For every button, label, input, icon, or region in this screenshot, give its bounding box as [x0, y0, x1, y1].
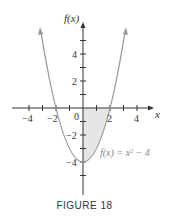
figure: f(x) x −4 −2 2 4 0 4 2 −2 −4 f(x) = x² −…	[0, 0, 169, 217]
x-tick-label: 2	[107, 113, 112, 124]
x-tick-label: −4	[22, 113, 33, 124]
y-axis-arrow-icon	[81, 22, 86, 28]
function-label: f(x) = x² − 4	[100, 147, 150, 159]
x-tick-label: −2	[47, 113, 58, 124]
origin-label: 0	[74, 111, 79, 122]
x-axis-label: x	[154, 108, 160, 120]
y-tick-label: 4	[72, 49, 77, 60]
y-tick-label: −4	[66, 157, 77, 168]
curve-arrow-left-icon	[38, 27, 43, 35]
y-tick-label: 2	[72, 76, 77, 87]
x-tick-label: 4	[134, 113, 139, 124]
figure-caption: FIGURE 18	[0, 200, 169, 211]
y-tick-label: −2	[66, 130, 77, 141]
curve-arrow-right-icon	[123, 27, 128, 35]
x-axis-arrow-icon	[148, 106, 154, 111]
parabola-chart: f(x) x −4 −2 2 4 0 4 2 −2 −4 f(x) = x² −…	[0, 0, 169, 217]
y-axis-label: f(x)	[64, 12, 80, 25]
